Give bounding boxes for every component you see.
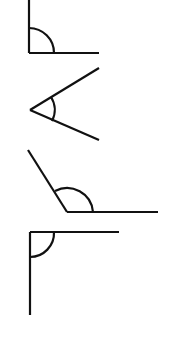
angle-diagram [0,0,186,341]
angle-arc [51,97,55,121]
angle-3 [28,150,158,212]
angle-arc [30,232,54,257]
ray [30,68,99,110]
ray [28,150,67,212]
angle-4 [30,232,119,315]
angle-arc [29,28,54,53]
angle-1 [29,0,99,53]
angle-2 [30,68,99,140]
ray [30,110,99,140]
